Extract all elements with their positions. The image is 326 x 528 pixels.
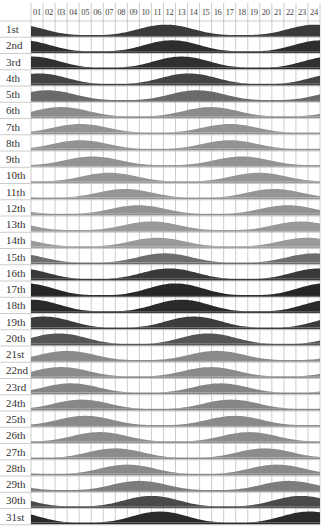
baseline bbox=[31, 474, 320, 476]
baseline bbox=[31, 360, 320, 362]
baseline bbox=[31, 133, 320, 135]
baseline bbox=[31, 165, 320, 167]
tide-curve bbox=[31, 253, 320, 262]
tide-curve bbox=[31, 25, 320, 35]
baseline bbox=[31, 51, 320, 53]
tide-curve bbox=[31, 40, 320, 51]
tide-plot-area bbox=[0, 0, 326, 528]
baseline bbox=[31, 506, 320, 508]
baseline bbox=[31, 116, 320, 118]
tide-curve bbox=[31, 73, 320, 83]
baseline bbox=[31, 100, 320, 102]
tide-chart: 0102030405060708091011121314151617181920… bbox=[0, 0, 326, 528]
baseline bbox=[31, 149, 320, 151]
day-row bbox=[0, 189, 320, 200]
baseline bbox=[31, 198, 320, 200]
tide-curve bbox=[31, 283, 320, 295]
baseline bbox=[31, 84, 320, 86]
tide-curve bbox=[31, 268, 320, 278]
baseline bbox=[31, 295, 320, 297]
baseline bbox=[31, 230, 320, 232]
tide-curve bbox=[31, 57, 320, 68]
day-row bbox=[0, 465, 320, 476]
baseline bbox=[31, 35, 320, 37]
baseline bbox=[31, 311, 320, 313]
tide-curve bbox=[31, 300, 320, 312]
baseline bbox=[31, 344, 320, 346]
baseline bbox=[31, 328, 320, 330]
baseline bbox=[31, 68, 320, 70]
baseline bbox=[31, 523, 320, 525]
baseline bbox=[31, 181, 320, 183]
baseline bbox=[31, 246, 320, 248]
day-row bbox=[0, 205, 320, 216]
baseline bbox=[31, 441, 320, 443]
baseline bbox=[31, 490, 320, 492]
baseline bbox=[31, 425, 320, 427]
baseline bbox=[31, 458, 320, 460]
baseline bbox=[31, 409, 320, 411]
baseline bbox=[31, 214, 320, 216]
baseline bbox=[31, 279, 320, 281]
baseline bbox=[31, 393, 320, 395]
baseline bbox=[31, 263, 320, 265]
baseline bbox=[31, 376, 320, 378]
day-row bbox=[0, 448, 320, 459]
day-row bbox=[0, 173, 320, 184]
